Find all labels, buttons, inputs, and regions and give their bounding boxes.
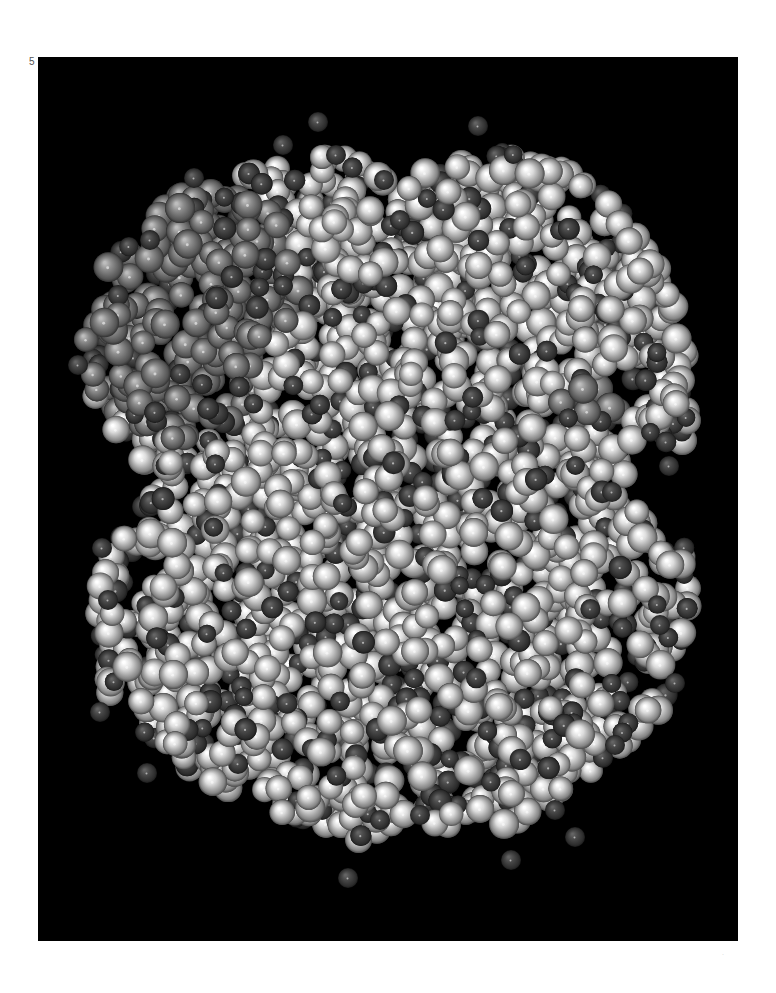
- page-mark: ·: [722, 951, 724, 957]
- figure-label: 5: [29, 56, 35, 67]
- molecule-render: [38, 57, 738, 941]
- molecule-image-panel: [38, 57, 738, 941]
